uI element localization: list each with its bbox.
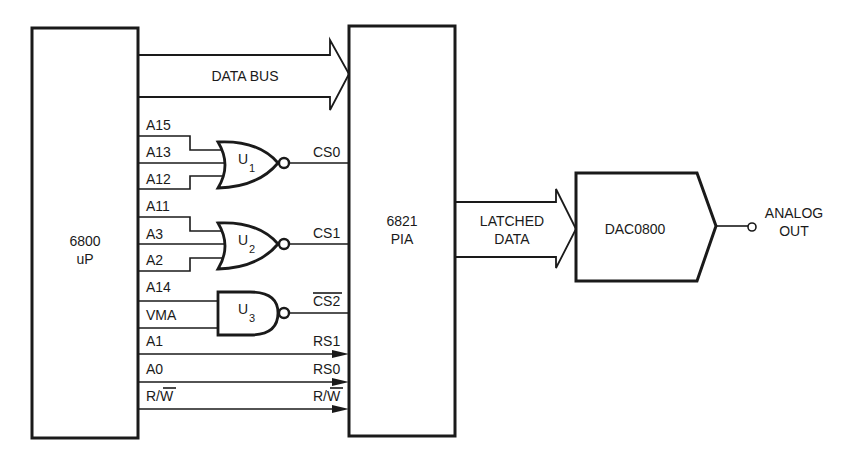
signal-a0-label: A0: [146, 361, 163, 377]
signal-rw-src-label: R/W: [146, 388, 174, 404]
inversion-bubble-icon: [279, 158, 289, 168]
latched-data-label-line1: LATCHED: [480, 213, 544, 229]
arrowhead-icon: [332, 405, 349, 413]
analog-output: ANALOG OUT: [716, 205, 823, 239]
pia-block-6821: 6821 PIA: [349, 26, 455, 436]
gate-u3-subscript: 3: [249, 312, 255, 324]
gate-u1-subscript: 1: [249, 162, 255, 174]
data-bus-arrow: DATA BUS: [138, 40, 349, 110]
latched-data-label-line2: DATA: [494, 231, 530, 247]
signal-a3-label: A3: [146, 226, 163, 242]
analog-out-label-line1: ANALOG: [765, 205, 823, 221]
gate-u2-subscript: 2: [249, 243, 255, 255]
cpu-label-line2: uP: [76, 251, 93, 267]
gate-u1-nor: A15 A13 A12 U 1 CS0: [138, 117, 349, 189]
gate-u3-label: U: [238, 301, 248, 317]
latched-data-arrow: LATCHED DATA: [455, 189, 576, 268]
direct-control-lines: A1 RS1 A0 RS0 R/W R/W: [138, 333, 349, 413]
analog-out-label-line2: OUT: [779, 223, 809, 239]
data-bus-label: DATA BUS: [211, 68, 278, 84]
signal-cs1-label: CS1: [313, 225, 340, 241]
signal-a12-label: A12: [146, 171, 171, 187]
circuit-diagram: 6800 uP 6821 PIA DATA BUS LATCHED DATA D…: [0, 0, 860, 467]
dac-block-dac0800: DAC0800: [576, 173, 716, 281]
signal-a14-label: A14: [146, 279, 171, 295]
signal-a13-label: A13: [146, 144, 171, 160]
signal-cs2-label: CS2: [313, 293, 340, 309]
cpu-block-6800: 6800 uP: [32, 28, 138, 438]
signal-vma-label: VMA: [146, 307, 177, 323]
arrowhead-icon: [332, 378, 349, 386]
gate-u1-label: U: [238, 151, 248, 167]
signal-rw-dst-label: R/W: [313, 388, 341, 404]
signal-a11-label: A11: [146, 198, 170, 214]
signal-a15-label: A15: [146, 117, 171, 133]
output-terminal-icon: [748, 223, 756, 231]
arrowhead-icon: [332, 350, 349, 358]
dac-label: DAC0800: [605, 221, 666, 237]
signal-cs0-label: CS0: [313, 144, 340, 160]
gate-u3-nand: A14 VMA U 3 CS2: [138, 279, 349, 335]
gate-u2-nor: A11 A3 A2 U 2 CS1: [138, 198, 349, 271]
signal-rs0-label: RS0: [313, 361, 340, 377]
inversion-bubble-icon: [279, 308, 289, 318]
cpu-label-line1: 6800: [69, 233, 100, 249]
signal-rs1-label: RS1: [313, 333, 340, 349]
signal-a2-label: A2: [146, 252, 163, 268]
pia-label-line2: PIA: [391, 231, 414, 247]
signal-a1-label: A1: [146, 333, 163, 349]
gate-u2-label: U: [238, 232, 248, 248]
pia-label-line1: 6821: [386, 213, 417, 229]
inversion-bubble-icon: [279, 239, 289, 249]
